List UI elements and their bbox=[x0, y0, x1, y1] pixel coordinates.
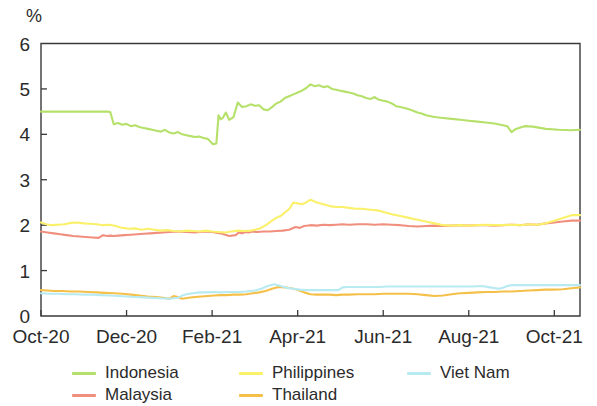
y-tick-label: 0 bbox=[19, 306, 30, 327]
y-tick-label: 4 bbox=[19, 124, 30, 145]
legend-swatch-icon bbox=[239, 372, 263, 375]
y-tick-label: 6 bbox=[19, 34, 30, 55]
x-tick-label: Oct-21 bbox=[526, 326, 583, 347]
legend-label: Thailand bbox=[272, 385, 337, 405]
x-tick-label: Oct-20 bbox=[12, 326, 69, 347]
y-tick-label: 1 bbox=[19, 261, 30, 282]
x-tick-label: Apr-21 bbox=[269, 326, 326, 347]
legend-item-indonesia[interactable]: Indonesia bbox=[72, 362, 179, 384]
legend-item-viet-nam[interactable]: Viet Nam bbox=[407, 362, 510, 384]
legend-label: Viet Nam bbox=[440, 363, 510, 383]
y-tick-label: 5 bbox=[19, 79, 30, 100]
series-line-philippines bbox=[41, 200, 580, 233]
legend-item-malaysia[interactable]: Malaysia bbox=[72, 384, 179, 406]
legend-swatch-icon bbox=[72, 372, 96, 375]
legend-swatch-icon bbox=[239, 394, 263, 397]
series-line-indonesia bbox=[41, 84, 580, 144]
x-tick-label: Jun-21 bbox=[354, 326, 412, 347]
x-tick-label: Dec-20 bbox=[96, 326, 157, 347]
legend-swatch-icon bbox=[72, 394, 96, 397]
y-tick-label: 2 bbox=[19, 215, 30, 236]
y-tick-label: 3 bbox=[19, 170, 30, 191]
legend-column: IndonesiaMalaysia bbox=[72, 362, 179, 406]
x-tick-label: Feb-21 bbox=[182, 326, 242, 347]
legend-column: Viet Nam bbox=[407, 362, 510, 384]
line-chart: % 0123456Oct-20Dec-20Feb-21Apr-21Jun-21A… bbox=[0, 0, 597, 406]
legend-label: Malaysia bbox=[105, 385, 172, 405]
plot-area: 0123456Oct-20Dec-20Feb-21Apr-21Jun-21Aug… bbox=[0, 0, 597, 360]
legend-item-thailand[interactable]: Thailand bbox=[239, 384, 354, 406]
chart-legend: IndonesiaMalaysiaPhilippinesThailandViet… bbox=[62, 362, 582, 406]
legend-label: Indonesia bbox=[105, 363, 179, 383]
x-tick-label: Aug-21 bbox=[438, 326, 499, 347]
legend-item-philippines[interactable]: Philippines bbox=[239, 362, 354, 384]
legend-column: PhilippinesThailand bbox=[239, 362, 354, 406]
legend-label: Philippines bbox=[272, 363, 354, 383]
series-line-malaysia bbox=[41, 221, 580, 238]
legend-swatch-icon bbox=[407, 372, 431, 375]
